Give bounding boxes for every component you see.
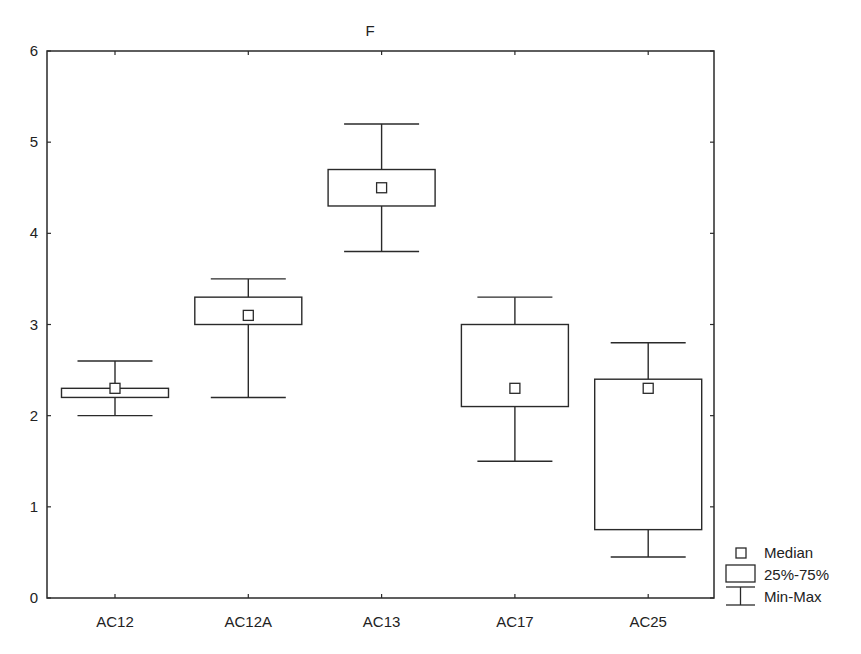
y-tick-label: 6 bbox=[30, 42, 38, 59]
box-ac12a bbox=[195, 279, 302, 398]
box-ac25 bbox=[595, 343, 702, 557]
legend-label-box: 25%-75% bbox=[764, 566, 829, 583]
y-tick-label: 4 bbox=[30, 224, 38, 241]
legend-box-icon bbox=[726, 565, 755, 582]
y-tick-label: 3 bbox=[30, 316, 38, 333]
x-tick-label: AC17 bbox=[496, 613, 534, 630]
box-ac17 bbox=[461, 297, 568, 461]
median-marker bbox=[110, 383, 120, 393]
median-marker bbox=[643, 383, 653, 393]
median-marker bbox=[377, 183, 387, 193]
iqr-box bbox=[595, 379, 702, 529]
y-tick-label: 0 bbox=[30, 589, 38, 606]
legend-label-median: Median bbox=[764, 544, 813, 561]
legend-whisker-icon bbox=[726, 587, 755, 605]
x-tick-label: AC25 bbox=[629, 613, 667, 630]
y-tick-label: 2 bbox=[30, 407, 38, 424]
x-tick-label: AC12 bbox=[96, 613, 134, 630]
box-ac12 bbox=[62, 361, 169, 416]
x-tick-label: AC13 bbox=[363, 613, 401, 630]
legend: Median 25%-75% Min-Max bbox=[726, 544, 829, 605]
iqr-box bbox=[461, 325, 568, 407]
legend-label-minmax: Min-Max bbox=[764, 588, 822, 605]
box-series bbox=[62, 124, 702, 557]
x-tick-label: AC12A bbox=[225, 613, 273, 630]
box-plot-chart: F 0123456 AC12AC12AAC13AC17AC25 Median 2… bbox=[0, 0, 861, 654]
median-marker bbox=[510, 383, 520, 393]
legend-median-icon bbox=[736, 548, 746, 558]
y-tick-label: 1 bbox=[30, 498, 38, 515]
median-marker bbox=[243, 310, 253, 320]
box-ac13 bbox=[328, 124, 435, 252]
y-tick-label: 5 bbox=[30, 133, 38, 150]
chart-title: F bbox=[365, 22, 374, 39]
